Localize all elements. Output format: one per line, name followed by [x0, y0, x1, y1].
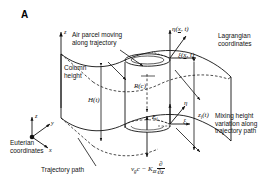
air-parcel-annotation: Air parcel moving along trajectory	[72, 31, 150, 46]
lagrangian-coordinates-annotation: Lagrangian coordinates	[218, 32, 276, 47]
leader-trajectory-path	[78, 138, 96, 166]
mixing-height-annotation: Mixing height variation along trajectory…	[215, 112, 277, 135]
leader-mixing-surface	[175, 70, 200, 100]
column-height-symbol: H(t)	[88, 97, 100, 105]
panel-label: A	[21, 9, 28, 20]
mixing-height-symbol: zi(t)	[198, 112, 209, 122]
eta-axis-label: η	[184, 100, 187, 108]
column-height-annotation: Column height	[64, 64, 100, 79]
slab-bottom-back-edge	[61, 118, 158, 156]
eulerian-coordinates-annotation: Euterian coordinates	[10, 139, 62, 154]
z-axis-label-eulerian: z	[35, 112, 37, 119]
leader-air-parcel	[120, 50, 143, 66]
xi-axis-label: ξ	[183, 118, 186, 126]
reaction-symbol: R(c)	[134, 83, 146, 91]
z-axis-label-top: z	[64, 28, 66, 35]
deposition-flux-formula: vgc − Kzz∂∂z	[131, 161, 165, 177]
y-axis-label-eulerian: y	[51, 119, 54, 126]
trajectory-path-annotation: Trajectory path	[41, 166, 111, 174]
reaction-arrow	[141, 74, 155, 112]
eta-coordinate-label: η(x, t)	[172, 26, 189, 34]
figure-canvas: A z Air parcel moving along trajectory C…	[0, 0, 279, 192]
leader-trajectory-surface	[176, 128, 200, 152]
leader-air-parcel-2	[108, 62, 126, 80]
xi-coordinate-label: ξ(x, t)	[178, 52, 194, 60]
emission-symbol: Ei	[152, 114, 158, 124]
